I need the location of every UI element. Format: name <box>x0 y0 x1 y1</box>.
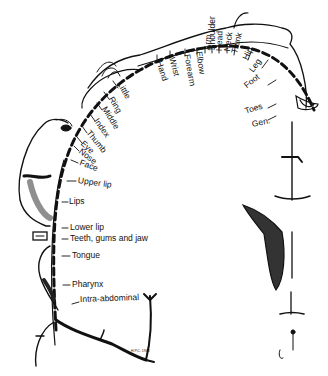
artist-signature: H.P.C. 1948 <box>131 349 150 353</box>
label-intra-abdominal: Intra-abdominal <box>80 293 139 304</box>
label-elbow: Elbow <box>195 51 207 75</box>
label-teeth-gums-jaw: Teeth, gums and jaw <box>70 234 148 243</box>
label-lower-lip: Lower lip <box>70 223 104 232</box>
label-pharynx: Pharynx <box>72 280 103 289</box>
opercular-shape <box>243 205 284 290</box>
label-tongue: Tongue <box>72 251 100 260</box>
lateral-sulcus <box>56 320 146 360</box>
homunculus-diagram: H.P.C. 1948 <box>0 0 328 376</box>
label-lips: Lips <box>69 197 85 206</box>
